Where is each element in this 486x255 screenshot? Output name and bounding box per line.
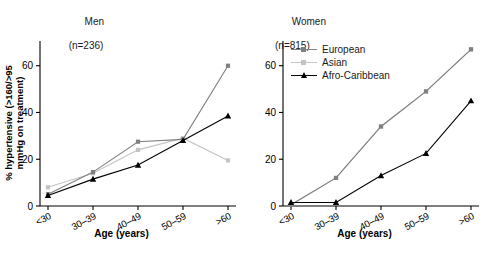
x-tick-label: >60 (214, 210, 233, 227)
data-point-marker (46, 185, 50, 189)
legend-key-asian (291, 57, 317, 68)
legend-label-asian: Asian (322, 56, 347, 69)
data-point-marker (226, 64, 230, 68)
panel-women: Women (n=815) 0204060<3030–3940–4950–59>… (243, 0, 486, 255)
legend-marker-square-european (301, 47, 306, 52)
y-tick-label: 0 (27, 201, 33, 212)
figure-two-panel-line-charts: Men (n=236) % hypertensive (>160/>95 mmH… (0, 0, 486, 255)
series-afro-caribbean (45, 113, 231, 198)
data-point-marker (378, 172, 384, 178)
y-tick-label: 20 (22, 154, 34, 165)
plot-area-men: 0204060<3030–3940–4950–59>60 (0, 0, 243, 255)
data-point-marker (226, 158, 230, 162)
data-point-marker (379, 124, 383, 128)
legend-item-afro-caribbean: Afro-Caribbean (291, 69, 390, 82)
x-tick-label: >60 (457, 210, 476, 227)
series-line (291, 101, 471, 203)
series-line (48, 116, 228, 195)
legend-label-european: European (322, 43, 365, 56)
y-tick-label: 20 (265, 154, 277, 165)
data-point-marker (225, 113, 231, 119)
legend-key-european (291, 44, 317, 55)
panel-men: Men (n=236) % hypertensive (>160/>95 mmH… (0, 0, 243, 255)
series-line (48, 66, 228, 195)
data-point-marker (91, 170, 95, 174)
y-tick-label: 40 (265, 107, 277, 118)
x-axis-label-women: Age (years) (243, 228, 486, 239)
data-point-marker (136, 148, 140, 152)
data-point-marker (180, 137, 186, 143)
series-afro-caribbean (288, 97, 474, 205)
legend-label-afro-caribbean: Afro-Caribbean (322, 69, 390, 82)
legend: European Asian Afro-Caribbean (291, 43, 390, 82)
legend-item-european: European (291, 43, 390, 56)
x-tick-label: <30 (34, 210, 53, 227)
legend-item-asian: Asian (291, 56, 390, 69)
x-axis-label-men: Age (years) (0, 228, 243, 239)
legend-marker-triangle-afro-caribbean (301, 72, 307, 78)
data-point-marker (135, 162, 141, 168)
y-tick-label: 60 (22, 60, 34, 71)
x-tick-label: <30 (277, 210, 296, 227)
data-point-marker (468, 97, 474, 103)
data-point-marker (424, 89, 428, 93)
legend-key-afro-caribbean (291, 70, 317, 81)
y-tick-label: 60 (265, 60, 277, 71)
legend-marker-square-asian (301, 60, 306, 65)
data-point-marker (469, 47, 473, 51)
data-point-marker (136, 140, 140, 144)
plot-area-women: 0204060<3030–3940–4950–59>60 (243, 0, 486, 255)
data-point-marker (334, 176, 338, 180)
y-tick-label: 40 (22, 107, 34, 118)
y-tick-label: 0 (270, 201, 276, 212)
